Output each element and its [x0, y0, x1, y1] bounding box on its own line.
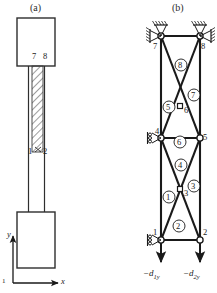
panel-a-node-label-7: 7	[32, 52, 36, 61]
truss-node-label-7: 7	[153, 42, 157, 51]
truss-element-label-2: 2	[176, 222, 180, 231]
truss-node-label-3: 3	[184, 189, 188, 198]
force-1-prefix: −d	[143, 268, 154, 278]
truss-element-label-1: 1	[166, 193, 170, 202]
force-label-node-2: −d2y	[183, 268, 200, 280]
figure-svg	[0, 0, 217, 293]
panel-a-caption: (a)	[30, 2, 41, 13]
force-2-prefix: −d	[183, 268, 194, 278]
truss-element-label-6: 6	[177, 138, 181, 147]
truss-node-label-4: 4	[155, 127, 159, 136]
panel-b-caption: (b)	[172, 2, 184, 13]
truss-node-label-8: 8	[201, 42, 205, 51]
truss-node-label-1: 1	[153, 228, 157, 237]
truss-element-label-7: 7	[191, 91, 195, 100]
figure-container: (a) (b) 7 8 1 2 x y 1 7 8 6 4 5 3 1 2 8 …	[0, 0, 217, 293]
truss-node-6	[178, 104, 183, 109]
truss-node-3	[178, 187, 183, 192]
truss-element-label-3: 3	[191, 182, 195, 191]
truss-node-2	[197, 237, 203, 243]
truss-element-label-4: 4	[178, 161, 182, 170]
panel-a-hatched-region	[32, 66, 43, 152]
panel-a-node-label-2: 2	[43, 147, 47, 156]
panel-a-node-label-1: 1	[28, 147, 32, 156]
support-node-7	[153, 21, 169, 36]
force-label-node-1: −d1y	[143, 268, 160, 280]
truss-element-label-8: 8	[178, 61, 182, 70]
truss-element-label-5: 5	[166, 103, 170, 112]
panel-a-bottom-block	[17, 212, 55, 268]
axis-y-label: y	[7, 230, 11, 239]
panel-a-node-label-8: 8	[43, 52, 47, 61]
force-2-suffix: y	[197, 273, 200, 280]
axis-x-label: x	[61, 277, 65, 286]
truss-node-label-2: 2	[203, 228, 207, 237]
axis-origin-label: 1	[2, 278, 6, 285]
truss-node-label-5: 5	[203, 133, 207, 142]
force-1-suffix: y	[157, 273, 160, 280]
truss-node-label-6: 6	[184, 106, 188, 115]
